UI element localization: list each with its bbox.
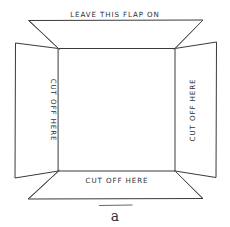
diagram-canvas: LEAVE THIS FLAP ON CUT OFF HERE CUT OFF … xyxy=(0,0,230,227)
top-flap-label: LEAVE THIS FLAP ON xyxy=(70,10,160,19)
caption-letter: a xyxy=(111,208,119,224)
caption-rule xyxy=(100,205,133,206)
left-flap-label: CUT OFF HERE xyxy=(49,79,58,142)
inner-box-panel xyxy=(59,49,176,172)
box-flap-diagram: LEAVE THIS FLAP ON CUT OFF HERE CUT OFF … xyxy=(0,0,230,227)
right-flap-label: CUT OFF HERE xyxy=(188,79,197,142)
bottom-flap-label: CUT OFF HERE xyxy=(86,176,149,185)
top-flap-shape xyxy=(29,20,204,49)
